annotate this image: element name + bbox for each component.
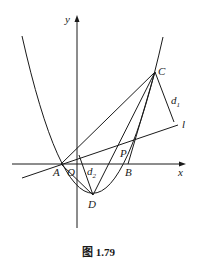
distance-d1-label: d1	[171, 94, 180, 109]
point-P-label: P	[119, 147, 127, 159]
y-axis-arrow-icon	[75, 15, 80, 22]
point-B-label: B	[125, 166, 132, 178]
segment-CD	[93, 72, 155, 195]
point-C-label: C	[158, 65, 166, 77]
parabola	[22, 36, 163, 193]
point-A-label: A	[52, 166, 60, 178]
y-axis-label: y	[64, 13, 70, 25]
x-axis-label: x	[177, 166, 183, 178]
figure-diagram: x y O A B C D P l d1 d2 图 1.79	[0, 0, 199, 263]
segment-CA	[61, 72, 155, 164]
point-D-label: D	[87, 198, 96, 210]
distance-d2-label: d2	[87, 165, 97, 180]
line-l	[22, 125, 178, 178]
line-l-label: l	[182, 118, 185, 130]
figure-caption: 图 1.79	[82, 246, 116, 258]
origin-label: O	[67, 166, 75, 178]
